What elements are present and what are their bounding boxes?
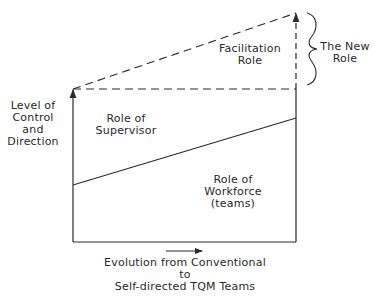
- y-axis-label: Level of Control and Direction: [2, 100, 64, 148]
- facilitation-role-label: Facilitation Role: [205, 43, 295, 67]
- x-axis-label: Evolution from Conventional to Self-dire…: [100, 257, 270, 293]
- brace-label: The New Role: [316, 41, 374, 65]
- workforce-role-label: Role of Workforce (teams): [198, 174, 268, 210]
- supervisor-role-label: Role of Supervisor: [86, 113, 166, 137]
